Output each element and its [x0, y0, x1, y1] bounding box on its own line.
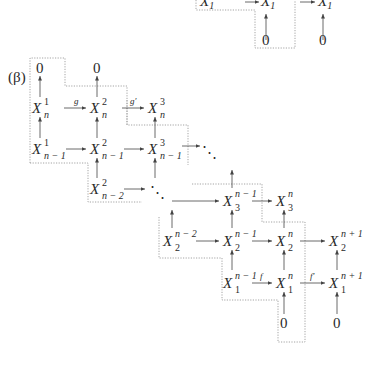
- node-X2-n: X 2 n: [89, 96, 107, 120]
- node-zero-bottom-b: 0: [333, 315, 341, 331]
- svg-text:3: 3: [160, 137, 165, 148]
- svg-text:1: 1: [288, 284, 293, 295]
- svg-text:X: X: [275, 275, 286, 291]
- node-top-x1-c: X1: [317, 0, 332, 11]
- svg-text:2: 2: [102, 137, 107, 148]
- svg-text:n + 1: n + 1: [341, 270, 363, 281]
- node-X2-n-1: X 2 n − 1: [89, 137, 124, 161]
- node-X1sub-n: X n 1: [275, 270, 293, 295]
- svg-text:n − 1: n − 1: [235, 188, 257, 199]
- node-X3sub-n-1: X n − 1 3: [222, 188, 257, 213]
- svg-text:X: X: [89, 141, 100, 157]
- svg-text:X: X: [89, 181, 100, 197]
- svg-text:n − 1: n − 1: [44, 150, 66, 161]
- svg-text:X: X: [222, 275, 233, 291]
- top-fragment: X1 X1 X1 0 0: [199, 0, 332, 48]
- svg-text:X: X: [222, 193, 233, 209]
- map-label-g: g: [74, 96, 79, 106]
- svg-text:n: n: [160, 109, 165, 120]
- svg-text:n − 1: n − 1: [160, 150, 182, 161]
- node-top-zero-a: 0: [262, 32, 270, 48]
- svg-text:3: 3: [288, 202, 293, 213]
- svg-text:2: 2: [341, 242, 346, 253]
- svg-text:n: n: [102, 109, 107, 120]
- node-X2sub-n+1: X n + 1 2: [328, 228, 363, 253]
- svg-text:X: X: [162, 233, 173, 249]
- node-X2sub-n-2: X n − 2 2: [162, 228, 197, 253]
- diagram-canvas: (β) g g′ f f′ ⋱ ⋱ X1 X1 X1 0 0 0 0 X 1 n…: [0, 0, 365, 378]
- svg-text:1: 1: [44, 96, 49, 107]
- svg-text:n − 1: n − 1: [235, 270, 257, 281]
- node-zero-col2: 0: [93, 60, 101, 76]
- svg-text:2: 2: [288, 242, 293, 253]
- svg-text:2: 2: [175, 242, 180, 253]
- dotted-boundaries: [30, 0, 305, 342]
- svg-text:n − 2: n − 2: [102, 190, 124, 201]
- svg-text:n: n: [288, 270, 293, 281]
- svg-text:n + 1: n + 1: [341, 228, 363, 239]
- svg-text:X: X: [89, 100, 100, 116]
- svg-text:X: X: [328, 275, 339, 291]
- node-top-x1-b: X1: [260, 0, 275, 11]
- svg-text:2: 2: [102, 96, 107, 107]
- node-X3sub-n: X n 3: [275, 188, 293, 213]
- node-X2sub-n: X n 2: [275, 228, 293, 253]
- svg-text:n: n: [44, 109, 49, 120]
- svg-text:X: X: [147, 141, 158, 157]
- figure-label: (β): [8, 69, 26, 86]
- node-zero-col1: 0: [36, 60, 44, 76]
- svg-text:2: 2: [235, 242, 240, 253]
- map-label-fprime: f′: [310, 271, 316, 281]
- svg-text:1: 1: [44, 137, 49, 148]
- diagonal-dots-2: ⋱: [150, 184, 165, 200]
- node-X3-n-1: X 3 n − 1: [147, 137, 182, 161]
- svg-text:n: n: [288, 188, 293, 199]
- nodes: 0 0 X 1 n X 2 n X 3 n X 1 n − 1 X 2 n − …: [31, 60, 363, 331]
- svg-text:X: X: [275, 193, 286, 209]
- node-top-zero-b: 0: [319, 32, 327, 48]
- svg-text:1: 1: [235, 284, 240, 295]
- svg-text:X: X: [31, 141, 42, 157]
- svg-text:n − 1: n − 1: [102, 150, 124, 161]
- svg-text:3: 3: [160, 96, 165, 107]
- inner-staircase-left: [30, 163, 142, 202]
- node-zero-bottom-a: 0: [280, 315, 288, 331]
- diagonal-dots-1: ⋱: [202, 144, 217, 160]
- arrows: [40, 2, 337, 314]
- svg-text:X: X: [328, 233, 339, 249]
- node-X1sub-n-1: X n − 1 1: [222, 270, 257, 295]
- svg-text:X: X: [275, 233, 286, 249]
- node-X2sub-n-1: X n − 1 2: [222, 228, 257, 253]
- svg-text:2: 2: [102, 177, 107, 188]
- svg-text:n − 1: n − 1: [235, 228, 257, 239]
- svg-text:X: X: [222, 233, 233, 249]
- node-X1sub-n+1: X n + 1 1: [328, 270, 363, 295]
- svg-text:X: X: [147, 100, 158, 116]
- node-X3-n: X 3 n: [147, 96, 165, 120]
- svg-text:X: X: [31, 100, 42, 116]
- svg-text:1: 1: [341, 284, 346, 295]
- map-label-gprime: g′: [130, 96, 138, 106]
- node-X1-n-1: X 1 n − 1: [31, 137, 66, 161]
- node-top-x1-a: X1: [199, 0, 214, 11]
- node-X2-n-2: X 2 n − 2: [89, 177, 124, 201]
- svg-text:3: 3: [235, 202, 240, 213]
- node-X1-n: X 1 n: [31, 96, 49, 120]
- svg-text:n − 2: n − 2: [175, 228, 197, 239]
- svg-text:n: n: [288, 228, 293, 239]
- map-labels: g g′ f f′: [74, 96, 316, 281]
- map-label-f: f: [260, 271, 264, 281]
